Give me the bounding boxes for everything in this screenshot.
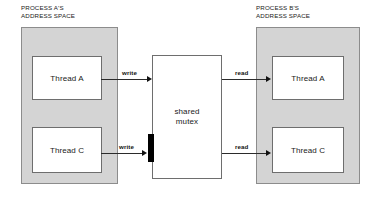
write-thread-c-arrowhead [142,150,147,156]
process-a-thread-a-box[interactable]: Thread A [32,56,102,100]
read-thread-a-line [222,79,267,80]
write-thread-c-label: write [119,143,134,150]
process-a-caption: PROCESS A'S ADDRESS SPACE [21,4,75,20]
shared-mutex-label: shared mutex [174,107,199,127]
read-thread-c-line [222,153,267,154]
process-b-thread-c-box[interactable]: Thread C [272,127,344,173]
write-thread-a-line [101,79,148,80]
process-a-thread-c-label: Thread C [50,146,84,155]
read-thread-c-label: read [235,143,248,150]
write-thread-c-line [101,153,143,154]
process-b-thread-a-label: Thread A [291,74,324,83]
write-thread-a-arrowhead [147,76,152,82]
read-thread-a-arrowhead [266,76,271,82]
process-b-thread-c-label: Thread C [291,146,325,155]
read-thread-a-label: read [235,69,248,76]
write-thread-a-label: write [122,69,137,76]
process-b-caption: PROCESS B'S ADDRESS SPACE [256,4,310,20]
mutex-lock-indicator [148,134,154,162]
diagram-canvas: PROCESS A'S ADDRESS SPACE Thread A Threa… [0,0,370,208]
shared-mutex-box[interactable]: shared mutex [152,55,222,179]
process-a-thread-c-box[interactable]: Thread C [32,127,102,173]
process-a-thread-a-label: Thread A [50,74,83,83]
read-thread-c-arrowhead [266,150,271,156]
process-b-thread-a-box[interactable]: Thread A [272,56,344,100]
